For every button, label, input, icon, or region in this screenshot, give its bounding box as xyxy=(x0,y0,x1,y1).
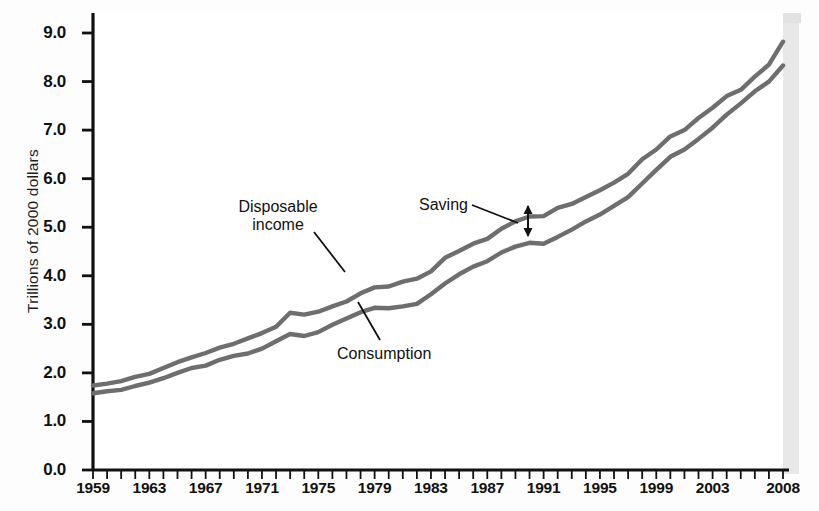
disposable-income-annotation: Disposable income xyxy=(238,198,317,234)
consumption-annotation: Consumption xyxy=(337,345,431,363)
saving-annotation: Saving xyxy=(419,196,468,214)
plot-canvas xyxy=(0,0,819,511)
plot-background xyxy=(93,13,783,470)
disposable-income-line2: income xyxy=(238,216,317,234)
disposable-income-line1: Disposable xyxy=(238,198,317,216)
plot-shadow-right xyxy=(783,13,799,474)
chart-page: the gap between income and saving — a ke… xyxy=(0,0,819,511)
